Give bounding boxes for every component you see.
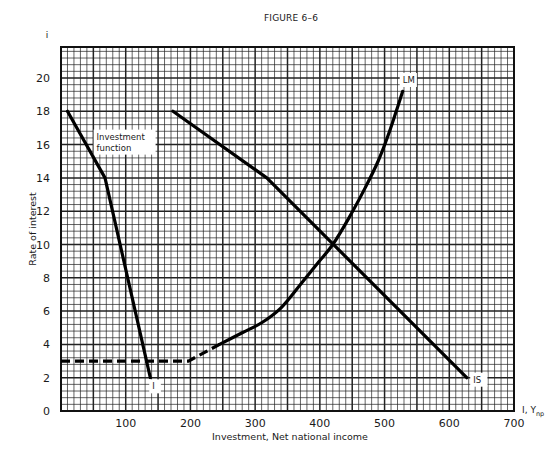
annotation-layer: InvestmentfunctionIISLM xyxy=(94,73,488,393)
x-tick-label: 600 xyxy=(439,417,460,430)
y-axis-label: Rate of interest xyxy=(27,192,38,266)
x-axis-symbol: I, Ynp xyxy=(522,405,544,418)
x-axis-symbol-main: I, Y xyxy=(522,405,536,415)
chart: FIGURE 6–6 02468101214161820 10020030040… xyxy=(0,0,559,457)
curve-label-is: IS xyxy=(473,375,481,385)
curve-label-investment-function: function xyxy=(97,143,132,153)
y-tick-label: 10 xyxy=(36,239,50,252)
x-tick-label: 700 xyxy=(504,417,525,430)
x-tick-label: 100 xyxy=(115,417,136,430)
figure-title: FIGURE 6–6 xyxy=(264,13,318,23)
annotation-background xyxy=(149,379,161,393)
x-axis-ticks: 100200300400500600700 xyxy=(115,417,524,430)
x-tick-label: 400 xyxy=(309,417,330,430)
svg-text:I, Ynp: I, Ynp xyxy=(522,405,544,418)
y-tick-label: 4 xyxy=(43,338,50,351)
x-axis-symbol-subscript: np xyxy=(536,410,544,418)
x-tick-label: 200 xyxy=(180,417,201,430)
curve-label-investment-function: Investment xyxy=(97,132,146,142)
x-tick-label: 300 xyxy=(245,417,266,430)
y-tick-label: 2 xyxy=(43,372,50,385)
curve-label-lm: LM xyxy=(403,75,415,85)
y-tick-label: 18 xyxy=(36,105,50,118)
x-axis-label: Investment, Net national income xyxy=(212,431,368,442)
y-tick-label: 0 xyxy=(43,405,50,418)
y-tick-label: 16 xyxy=(36,139,50,152)
y-tick-label: 14 xyxy=(36,172,50,185)
y-tick-label: 12 xyxy=(36,205,50,218)
y-axis-symbol: i xyxy=(46,30,49,40)
lm-curve-dashed xyxy=(61,344,220,361)
x-tick-label: 500 xyxy=(374,417,395,430)
y-axis-ticks: 02468101214161820 xyxy=(36,72,50,418)
y-tick-label: 8 xyxy=(43,272,50,285)
y-tick-label: 20 xyxy=(36,72,50,85)
curve-label-i: I xyxy=(152,381,155,391)
y-tick-label: 6 xyxy=(43,305,50,318)
